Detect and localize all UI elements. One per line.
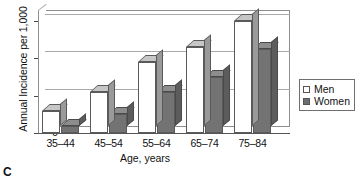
panel-letter: C: [3, 165, 12, 179]
bar-side-face: [271, 36, 278, 126]
legend-swatch-women-icon: [303, 98, 310, 105]
x-tick-label-75-84: 75–84: [223, 137, 283, 149]
legend-swatch-men-icon: [303, 86, 310, 93]
plot-floor-front-edge: [38, 133, 290, 134]
bar-men-35-44: [42, 111, 60, 133]
bar-side-face: [252, 8, 259, 126]
plot-area: [38, 10, 290, 134]
legend-item-women: Women: [303, 95, 350, 107]
bar-front-face: [234, 21, 252, 133]
bar-front-face: [186, 47, 204, 133]
bar-men-45-54: [90, 92, 108, 133]
bar-side-face: [175, 79, 182, 126]
bar-side-face: [204, 34, 211, 126]
chart-legend: Men Women: [299, 79, 355, 111]
bar-side-face: [108, 79, 115, 126]
legend-label-men: Men: [314, 84, 334, 95]
bar-men-75-84: [234, 21, 252, 133]
bar-front-face: [90, 92, 108, 133]
bar-women-35-44: [61, 126, 79, 133]
bar-front-face: [138, 62, 156, 133]
bar-men-65-74: [186, 47, 204, 133]
bar-men-55-64: [138, 62, 156, 133]
bar-side-face: [223, 64, 230, 126]
legend-label-women: Women: [314, 96, 350, 107]
bar-front-face: [42, 111, 60, 133]
legend-item-men: Men: [303, 83, 350, 95]
x-axis-title: Age, years: [0, 152, 290, 164]
bar-front-face: [61, 126, 79, 133]
bar-side-face: [156, 49, 163, 126]
